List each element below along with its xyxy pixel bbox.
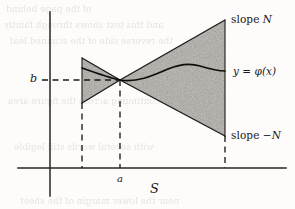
lower-boundary-slope-label: slope −N <box>231 130 281 141</box>
shaded-cone-region <box>82 20 225 136</box>
solution-curve-label: y = φ(x) <box>233 66 276 77</box>
slope-word: slope <box>231 13 260 25</box>
coordinate-axes <box>18 12 286 196</box>
curve-equals: = <box>242 65 251 77</box>
right-cone-base <box>120 20 225 136</box>
upper-boundary-slope-label: slope N <box>231 14 272 25</box>
y-axis-tick-label-b: b <box>30 73 37 84</box>
curve-rhs: φ(x) <box>255 65 276 77</box>
region-label-S: S <box>150 182 159 195</box>
slope-word: slope <box>231 129 260 141</box>
slope-symbol: N <box>263 13 272 25</box>
x-axis-tick-label-a: a <box>117 174 123 184</box>
ode-cone-region-figure: of the page behind and this text shows t… <box>0 0 295 209</box>
figure-canvas <box>0 0 295 209</box>
slope-symbol: −N <box>263 129 281 141</box>
